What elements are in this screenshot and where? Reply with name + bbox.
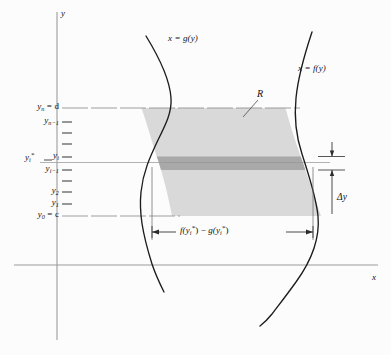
tick-yn-sub: n [41,105,44,112]
x-axis-label: x [372,273,376,282]
width-g-part: g(y [208,225,220,235]
figure-canvas: y x x = g(y) x = f(y) R Δy f(yi*) − g(yi… [0,0,391,355]
width-f-star: * [192,224,196,232]
right-curve-label: x = f(y) [298,64,326,73]
width-f-close: ) [195,225,198,235]
tick-label-yi1: yi−1 [6,164,59,173]
representative-rectangle [100,157,360,171]
region-label: R [257,89,263,99]
tick-label-y2: y2 [6,186,59,195]
tick-label-y0: y0 = c [6,210,59,219]
tick-yn-suffix: = d [45,101,59,111]
tick-label-yn: yn = d [6,102,59,111]
tick-label-y1: y1 [6,198,59,207]
tick-label-yn1: yn−1 [6,116,59,125]
tick-y1-sub: 1 [56,201,59,208]
left-curve-label: x = g(y) [168,34,198,43]
tick-yi1-sub: i−1 [50,167,59,174]
tick-yi-sub: i [57,154,59,161]
width-f-part: f(y [180,225,190,235]
width-label: f(yi*) − g(yi*) [180,226,229,235]
tick-yn1-sub: n−1 [48,119,59,126]
delta-y-label: Δy [337,193,347,203]
width-minus: − [201,225,206,235]
tick-y0-suffix: = c [45,209,59,219]
tick-y2-sub: 2 [56,189,59,196]
y-axis-label: y [61,9,65,18]
y-axis-ticks [62,122,72,204]
delta-y-dimension [318,142,345,214]
width-g-star: * [222,224,226,232]
tick-y0-sub: 0 [42,213,45,220]
width-g-close: ) [225,225,228,235]
tick-label-yi: yi [6,151,59,160]
diagram-svg [0,0,391,355]
